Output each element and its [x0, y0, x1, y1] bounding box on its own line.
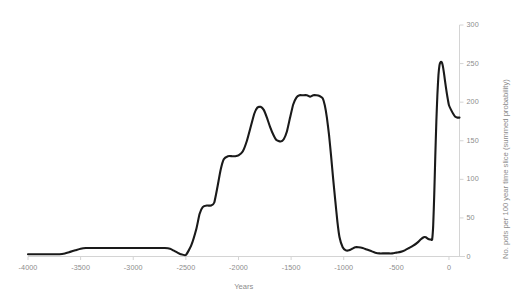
- x-tick-label: -2000: [229, 263, 248, 272]
- x-tick-label: -1000: [334, 263, 353, 272]
- x-axis-title: Years: [28, 282, 460, 291]
- y-axis-title: No. pots per 100 year time slice (summed…: [501, 79, 510, 259]
- data-series-line: [28, 62, 460, 255]
- line-chart-plot: [0, 0, 515, 306]
- x-tick-marks: [28, 257, 449, 261]
- y-tick-label: 50: [467, 213, 475, 222]
- y-tick-label: 0: [467, 252, 471, 261]
- x-tick-label: -500: [389, 263, 404, 272]
- y-tick-label: 250: [467, 59, 479, 68]
- x-tick-label: -2500: [176, 263, 195, 272]
- x-tick-label: -3000: [124, 263, 143, 272]
- x-tick-label: 0: [447, 263, 451, 272]
- chart-container: -4000-3500-3000-2500-2000-1500-1000-5000…: [0, 0, 515, 306]
- y-tick-label: 100: [467, 174, 479, 183]
- x-tick-label: -3500: [71, 263, 90, 272]
- y-tick-label: 150: [467, 136, 479, 145]
- y-tick-label: 200: [467, 97, 479, 106]
- y-tick-label: 300: [467, 20, 479, 29]
- y-tick-marks: [460, 25, 464, 257]
- x-tick-label: -4000: [19, 263, 38, 272]
- x-tick-label: -1500: [282, 263, 301, 272]
